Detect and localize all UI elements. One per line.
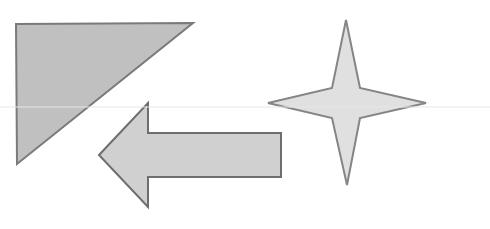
diagram-canvas (0, 0, 490, 229)
